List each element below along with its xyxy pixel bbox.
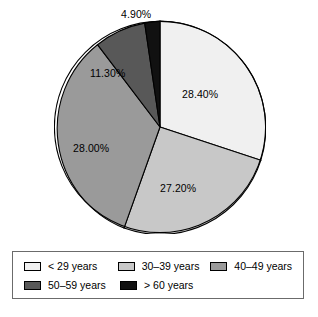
legend-item-40-49[interactable]: 40–49 years [210,257,303,276]
legend-label-30-39: 30–39 years [142,261,200,272]
legend-item-50-59[interactable]: 50–59 years [24,276,120,295]
legend-label-under-29: < 29 years [48,261,97,272]
legend-swatch-30-39 [118,262,135,271]
legend-label-40-49: 40–49 years [234,261,292,272]
legend-swatch-50-59 [24,281,41,290]
pie-chart-figure: 4.90% 28.40% 27.20% 28.00% 11.30% < 29 y… [0,0,318,317]
slice-value-label-50-59: 11.30% [90,68,125,79]
legend-swatch-40-49 [210,262,227,271]
legend-item-under-29[interactable]: < 29 years [24,257,118,276]
legend-swatch-over-60 [120,281,137,290]
slice-value-label-under-29: 28.40% [182,89,218,100]
pie-svg [54,20,266,234]
chart-plot-area: 4.90% 28.40% 27.20% 28.00% 11.30% [0,0,318,248]
slice-value-label-40-49: 28.00% [73,143,109,154]
legend-item-30-39[interactable]: 30–39 years [118,257,211,276]
chart-legend: < 29 years 30–39 years 40–49 years 50–59… [12,251,304,299]
legend-item-over-60[interactable]: > 60 years [120,276,215,295]
legend-row: 50–59 years > 60 years [13,276,303,295]
legend-label-50-59: 50–59 years [48,280,106,291]
legend-label-over-60: > 60 years [144,280,193,291]
legend-row: < 29 years 30–39 years 40–49 years [13,257,303,276]
slice-value-label-30-39: 27.20% [160,183,196,194]
slice-value-label-over-60: 4.90% [121,9,151,20]
legend-swatch-under-29 [24,262,41,271]
